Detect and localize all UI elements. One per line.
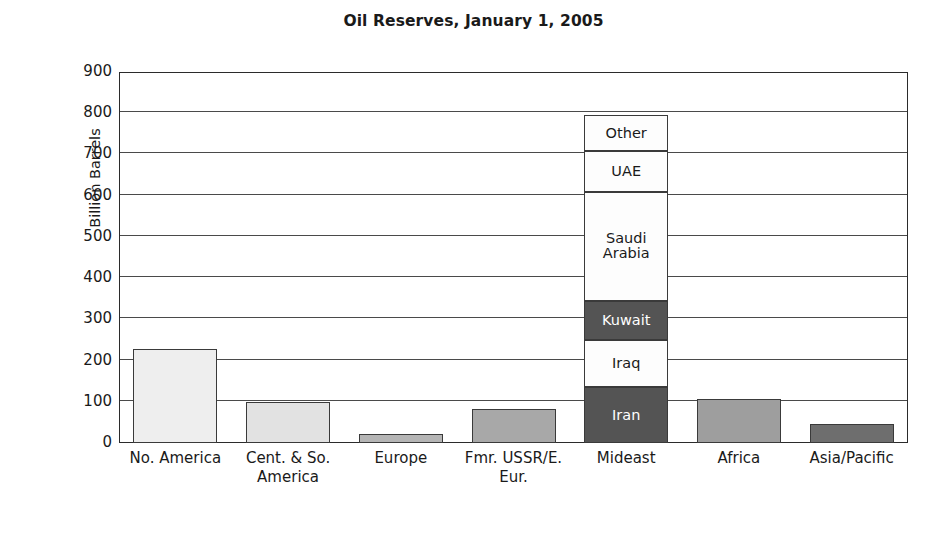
bar-group[interactable] — [472, 72, 556, 443]
bar[interactable] — [359, 434, 443, 443]
y-axis-tick-label: 0 — [46, 435, 112, 450]
bar-segment[interactable]: Other — [584, 115, 668, 151]
chart-title: Oil Reserves, January 1, 2005 — [0, 12, 947, 30]
x-axis-tick-label: No. America — [113, 449, 238, 468]
bar-group[interactable] — [246, 72, 330, 443]
bar-group[interactable] — [697, 72, 781, 443]
y-axis-tick-labels: 0100200300400500600700800900 — [40, 72, 112, 443]
bars-layer: IranIraqKuwaitSaudi ArabiaUAEOther — [119, 72, 908, 443]
bar[interactable] — [246, 402, 330, 443]
bar-segment[interactable]: Iraq — [584, 340, 668, 387]
bar-group[interactable]: IranIraqKuwaitSaudi ArabiaUAEOther — [584, 72, 668, 443]
y-axis-tick-label: 900 — [46, 64, 112, 79]
y-axis-tick-label: 800 — [46, 105, 112, 120]
bar[interactable] — [133, 349, 217, 443]
x-axis-tick-label: Cent. & So. America — [226, 449, 351, 487]
bar-group[interactable] — [810, 72, 894, 443]
bar-segment[interactable]: Iran — [584, 387, 668, 443]
x-axis-tick-label: Fmr. USSR/E. Eur. — [451, 449, 576, 487]
bar[interactable] — [810, 424, 894, 443]
bar-segment[interactable]: Kuwait — [584, 301, 668, 340]
y-axis-tick-label: 200 — [46, 353, 112, 368]
y-axis-tick-label: 400 — [46, 270, 112, 285]
x-axis-tick-label: Europe — [338, 449, 463, 468]
bar-segment[interactable]: Saudi Arabia — [584, 192, 668, 301]
y-axis-tick-label: 600 — [46, 188, 112, 203]
y-axis-tick-label: 100 — [46, 394, 112, 409]
chart-container: Oil Reserves, January 1, 2005 Billion Ba… — [0, 0, 947, 554]
bar-segment[interactable]: UAE — [584, 151, 668, 191]
x-axis-tick-label: Mideast — [564, 449, 689, 468]
bar[interactable] — [472, 409, 556, 443]
bar-group[interactable] — [359, 72, 443, 443]
y-axis-tick-label: 700 — [46, 146, 112, 161]
x-axis-tick-label: Africa — [677, 449, 802, 468]
y-axis-tick-label: 300 — [46, 311, 112, 326]
x-axis-tick-labels: No. AmericaCent. & So. AmericaEuropeFmr.… — [119, 449, 908, 544]
y-axis-tick-label: 500 — [46, 229, 112, 244]
x-axis-tick-label: Asia/Pacific — [789, 449, 914, 468]
bar[interactable] — [697, 399, 781, 443]
bar-group[interactable] — [133, 72, 217, 443]
